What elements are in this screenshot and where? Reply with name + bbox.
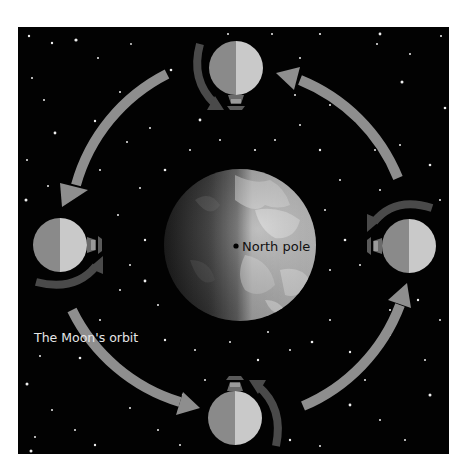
moon-orbit-diagram: North pole The Moon's orbit [0,0,466,471]
north-pole-label: North pole [242,239,310,254]
moon-orbit-label: The Moon's orbit [33,330,138,345]
north-pole-dot [233,243,238,248]
